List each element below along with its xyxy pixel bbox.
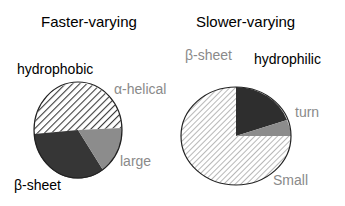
label-hydrophilic: hydrophilic <box>254 51 321 67</box>
label-turn: turn <box>295 104 319 120</box>
label-alpha-helical: α-helical <box>114 81 166 97</box>
slice-hydrophobic-alpha-helical <box>34 83 122 134</box>
label-beta-sheet-left: β-sheet <box>14 177 61 193</box>
label-hydrophobic: hydrophobic <box>17 61 93 77</box>
label-large: large <box>120 153 151 169</box>
chart-title-slower-varying: Slower-varying <box>196 13 295 30</box>
chart-title-faster-varying: Faster-varying <box>41 13 137 30</box>
label-small: Small <box>273 172 308 188</box>
label-beta-sheet-right: β-sheet <box>185 47 232 63</box>
faster-varying-pie <box>34 82 122 179</box>
slower-varying-pie <box>181 87 291 185</box>
